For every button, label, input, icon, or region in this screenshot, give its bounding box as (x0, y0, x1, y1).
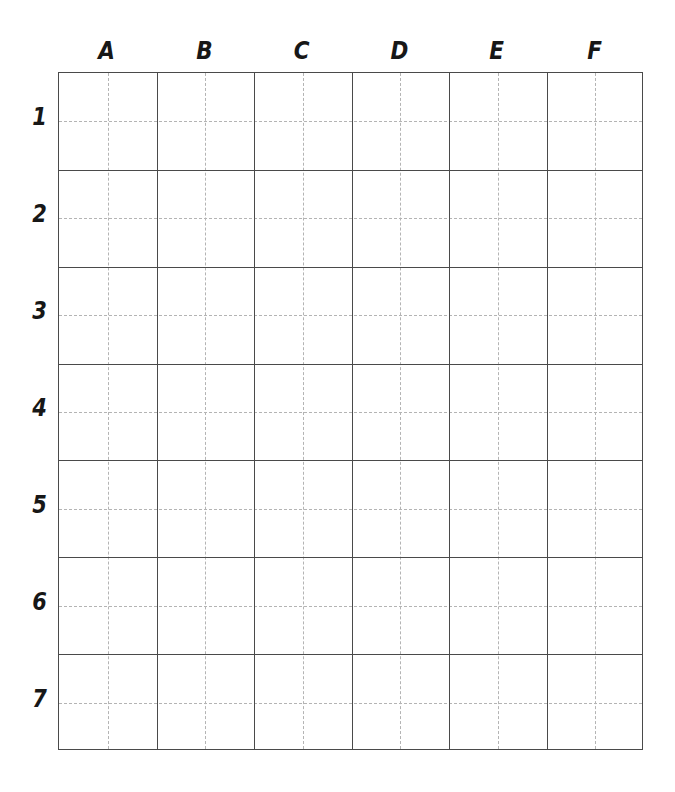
grid-cell-F7[interactable] (547, 654, 645, 751)
grid-cell-B7[interactable] (157, 654, 255, 751)
grid-cell-A4[interactable] (59, 364, 157, 461)
column-header-f[interactable]: F (552, 34, 636, 68)
row-header-6[interactable]: 6 (13, 585, 47, 619)
grid-cell-F3[interactable] (547, 267, 645, 364)
grid-cell-C6[interactable] (254, 557, 352, 654)
grid-cell-D1[interactable] (352, 73, 450, 170)
row-header-3[interactable]: 3 (13, 294, 47, 328)
grid-cell-A5[interactable] (59, 460, 157, 557)
row-header-1[interactable]: 1 (13, 100, 47, 134)
grid-cell-C4[interactable] (254, 364, 352, 461)
grid-cell-D2[interactable] (352, 170, 450, 267)
row-header-7[interactable]: 7 (13, 682, 47, 716)
column-header-b[interactable]: B (162, 34, 246, 68)
grid-cell-A6[interactable] (59, 557, 157, 654)
grid-cell-C5[interactable] (254, 460, 352, 557)
grid-cell-B5[interactable] (157, 460, 255, 557)
column-header-a[interactable]: A (65, 34, 149, 68)
grid-cell-D3[interactable] (352, 267, 450, 364)
grid-cell-A3[interactable] (59, 267, 157, 364)
grid-cell-E7[interactable] (449, 654, 547, 751)
grid-cell-F2[interactable] (547, 170, 645, 267)
grid-cell-A7[interactable] (59, 654, 157, 751)
grid-cell-D4[interactable] (352, 364, 450, 461)
grid-cell-E3[interactable] (449, 267, 547, 364)
grid-cell-B6[interactable] (157, 557, 255, 654)
row-header-2[interactable]: 2 (13, 197, 47, 231)
grid-cell-F4[interactable] (547, 364, 645, 461)
grid-cell-B1[interactable] (157, 73, 255, 170)
column-header-c[interactable]: C (260, 34, 344, 68)
grid-cell-A2[interactable] (59, 170, 157, 267)
grid-cell-B3[interactable] (157, 267, 255, 364)
grid-cell-C7[interactable] (254, 654, 352, 751)
grid-cell-E2[interactable] (449, 170, 547, 267)
grid-cell-C3[interactable] (254, 267, 352, 364)
grid-sheet: ABCDEF 1234567 (0, 0, 675, 792)
grid-cell-F1[interactable] (547, 73, 645, 170)
grid-cell-D7[interactable] (352, 654, 450, 751)
grid-cell-E6[interactable] (449, 557, 547, 654)
grid-cell-B2[interactable] (157, 170, 255, 267)
grid-table[interactable] (58, 72, 643, 750)
grid-cell-E5[interactable] (449, 460, 547, 557)
grid-cell-F5[interactable] (547, 460, 645, 557)
row-header-5[interactable]: 5 (13, 488, 47, 522)
grid-cell-D5[interactable] (352, 460, 450, 557)
grid-cell-B4[interactable] (157, 364, 255, 461)
grid-cell-E4[interactable] (449, 364, 547, 461)
column-header-d[interactable]: D (357, 34, 441, 68)
column-header-e[interactable]: E (455, 34, 539, 68)
grid-cell-A1[interactable] (59, 73, 157, 170)
grid-cell-C2[interactable] (254, 170, 352, 267)
grid-cell-E1[interactable] (449, 73, 547, 170)
row-header-4[interactable]: 4 (13, 391, 47, 425)
grid-cell-F6[interactable] (547, 557, 645, 654)
grid-cell-D6[interactable] (352, 557, 450, 654)
grid-cell-C1[interactable] (254, 73, 352, 170)
